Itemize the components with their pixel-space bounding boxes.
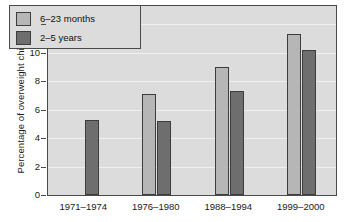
chart-legend: 6–23 months 2–5 years [9, 5, 141, 49]
legend-swatch-icon-0 [16, 12, 31, 26]
x-tick-label: 1976–1980 [116, 201, 196, 213]
y-tick-mark [41, 53, 46, 54]
bar [230, 91, 244, 195]
legend-label-0: 6–23 months [40, 13, 95, 25]
bar [142, 94, 156, 195]
y-tick-mark [41, 138, 46, 139]
y-tick-mark [41, 81, 46, 82]
y-tick-mark [41, 195, 46, 196]
y-tick-label: 4 [17, 133, 40, 143]
bar [215, 67, 229, 195]
y-tick-label: 0 [17, 190, 40, 200]
legend-swatch-icon-1 [16, 31, 31, 45]
x-tick-label: 1999–2000 [261, 201, 341, 213]
y-tick-mark [41, 24, 46, 25]
bar [85, 120, 99, 195]
bar [302, 50, 316, 195]
y-tick-mark [41, 110, 46, 111]
bar-chart: Percentage of overweight children 024681… [0, 0, 349, 222]
x-tick-label: 1971–1974 [43, 201, 123, 213]
y-tick-mark [41, 167, 46, 168]
y-tick-label: 10 [17, 48, 40, 58]
bar [157, 121, 171, 195]
x-tick-label: 1988–1994 [188, 201, 268, 213]
bar [287, 34, 301, 195]
y-tick-label: 8 [17, 76, 40, 86]
y-tick-label: 2 [17, 162, 40, 172]
legend-label-1: 2–5 years [40, 32, 82, 44]
y-tick-label: 6 [17, 105, 40, 115]
